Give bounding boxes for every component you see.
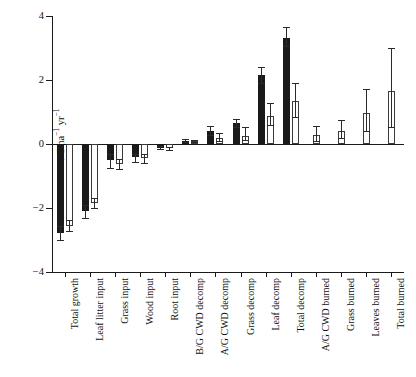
error-bar-cap <box>233 119 240 120</box>
x-tick-mark <box>341 272 342 277</box>
error-bar-cap <box>82 205 89 206</box>
x-tick-mark <box>115 272 116 277</box>
bar-white <box>91 144 98 203</box>
error-bar-cap <box>107 168 114 169</box>
x-axis-label: Total decomp <box>295 278 306 333</box>
bar-black <box>57 144 64 233</box>
error-bar-line <box>286 27 287 46</box>
figure-panel: t C ha−1 yr−1 420−2−4 Total growthLeaf l… <box>0 0 416 377</box>
zero-baseline <box>52 144 404 145</box>
error-bar-line <box>69 220 70 231</box>
error-bar-cap <box>132 162 139 163</box>
y-axis-title-sup1: −1 <box>52 128 61 136</box>
error-bar-cap <box>116 169 123 170</box>
error-bar-cap <box>116 159 123 160</box>
error-bar-line <box>135 154 136 163</box>
x-tick-mark <box>65 272 66 277</box>
x-tick-mark <box>366 272 367 277</box>
error-bar-cap <box>141 154 148 155</box>
error-bar-cap <box>388 127 395 128</box>
error-bar-cap <box>157 146 164 147</box>
y-tick-mark <box>46 144 52 145</box>
error-bar-cap <box>57 240 64 241</box>
error-bar-cap <box>132 154 139 155</box>
error-bar-line <box>261 67 262 82</box>
x-axis-label: Leaf decomp <box>270 278 281 330</box>
error-bar-cap <box>141 163 148 164</box>
error-bar-line <box>219 133 220 140</box>
y-tick-mark <box>46 272 52 273</box>
error-bar-cap <box>242 140 249 141</box>
y-tick-mark <box>46 16 52 17</box>
error-bar-line <box>245 127 246 140</box>
error-bar-cap <box>233 127 240 128</box>
error-bar-cap <box>292 117 299 118</box>
error-bar-line <box>366 89 367 131</box>
error-bar-line <box>60 226 61 240</box>
bar-black <box>82 144 89 211</box>
x-tick-mark <box>316 272 317 277</box>
error-bar-cap <box>91 208 98 209</box>
x-tick-mark <box>140 272 141 277</box>
error-bar-cap <box>313 141 320 142</box>
x-tick-mark <box>190 272 191 277</box>
x-axis-label: A/G CWD decomp <box>219 278 230 355</box>
y-axis-title-mid: yr <box>55 117 66 128</box>
error-bar-cap <box>82 218 89 219</box>
error-bar-cap <box>66 231 73 232</box>
x-axis-label: Grass burned <box>345 278 356 331</box>
error-bar-cap <box>313 126 320 127</box>
error-bar-cap <box>182 139 189 140</box>
error-bar-line <box>270 103 271 124</box>
x-axis-label: B/G CWD decomp <box>194 278 205 355</box>
error-bar-cap <box>292 83 299 84</box>
error-bar-line <box>210 126 211 136</box>
error-bar-cap <box>216 133 223 134</box>
error-bar-line <box>316 126 317 142</box>
error-bar-cap <box>363 131 370 132</box>
x-axis-label: Total burned <box>395 278 406 329</box>
x-axis-label: Grass decomp <box>245 278 256 335</box>
x-axis-label: Total growth <box>69 278 80 329</box>
error-bar-cap <box>91 198 98 199</box>
error-bar-line <box>94 198 95 208</box>
error-bar-line <box>295 83 296 117</box>
bar-black <box>283 38 290 144</box>
error-bar-cap <box>258 67 265 68</box>
error-bar-cap <box>283 46 290 47</box>
x-tick-mark <box>90 272 91 277</box>
x-tick-mark <box>241 272 242 277</box>
error-bar-line <box>236 119 237 127</box>
y-tick-label: 2 <box>20 74 44 85</box>
error-bar-cap <box>166 147 173 148</box>
error-bar-cap <box>216 141 223 142</box>
error-bar-cap <box>388 48 395 49</box>
x-tick-mark <box>266 272 267 277</box>
error-bar-line <box>119 159 120 169</box>
error-bar-cap <box>182 142 189 143</box>
x-axis-label: Leaves burned <box>370 278 381 337</box>
error-bar-cap <box>166 150 173 151</box>
y-tick-label: 4 <box>20 10 44 21</box>
x-tick-mark <box>391 272 392 277</box>
x-tick-mark <box>215 272 216 277</box>
x-axis-label: Leaf litter input <box>94 278 105 341</box>
x-tick-mark <box>165 272 166 277</box>
x-axis-label: Root input <box>169 278 180 321</box>
error-bar-line <box>341 120 342 138</box>
error-bar-cap <box>283 27 290 28</box>
error-bar-cap <box>191 140 198 141</box>
y-axis-title-sup2: −1 <box>52 109 61 117</box>
y-tick-label: −2 <box>20 202 44 213</box>
error-bar-line <box>85 205 86 218</box>
error-bar-cap <box>338 120 345 121</box>
error-bar-cap <box>207 135 214 136</box>
y-tick-label: −4 <box>20 266 44 277</box>
error-bar-cap <box>363 89 370 90</box>
error-bar-cap <box>267 103 274 104</box>
x-axis-line <box>52 272 404 273</box>
error-bar-cap <box>258 83 265 84</box>
x-axis-label: A/G CWD burned <box>320 278 331 351</box>
error-bar-line <box>144 154 145 162</box>
error-bar-cap <box>267 125 274 126</box>
